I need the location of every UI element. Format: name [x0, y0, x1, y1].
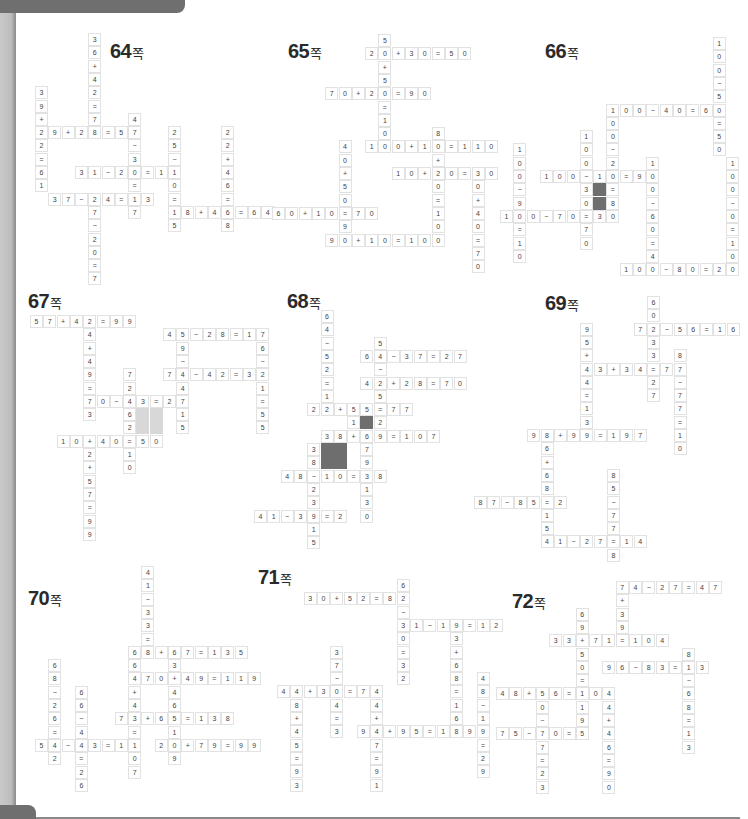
- grid-cell: 4: [360, 377, 373, 390]
- grid-cell: 1: [123, 448, 136, 461]
- grid-cell: 0: [168, 179, 181, 192]
- grid-cell: 3: [307, 496, 320, 509]
- grid-cell: 0: [567, 170, 580, 183]
- grid-cell: 7: [536, 727, 549, 740]
- grid-cell: 6: [450, 712, 463, 725]
- grid-cell: −: [75, 712, 88, 725]
- grid-cell: 0: [642, 634, 655, 647]
- grid-cell: =: [48, 726, 61, 739]
- grid-cell: 6: [360, 430, 373, 443]
- grid-cell: 0: [589, 687, 602, 700]
- grid-cell: 7: [325, 87, 338, 100]
- grid-cell: 3: [472, 167, 485, 180]
- grid-cell: =: [221, 193, 234, 206]
- grid-cell: 1: [472, 140, 485, 153]
- grid-cell: 3: [656, 661, 669, 674]
- grid-cell: 2: [580, 535, 593, 548]
- grid-cell: 5: [168, 712, 181, 725]
- grid-cell: 2: [374, 377, 387, 390]
- grid-cell: 1: [629, 634, 642, 647]
- grid-cell: 7: [176, 395, 189, 408]
- grid-cell: =: [208, 672, 221, 685]
- grid-cell: =: [606, 183, 619, 196]
- grid-cell: 0: [646, 170, 659, 183]
- puzzle-title: 66쪽: [545, 40, 579, 63]
- grid-cell: 1: [321, 470, 334, 483]
- grid-cell: 1: [450, 699, 463, 712]
- grid-cell: =: [128, 726, 141, 739]
- grid-cell: 9: [580, 429, 593, 442]
- grid-cell: 8: [674, 349, 687, 362]
- grid-cell: 0: [633, 263, 646, 276]
- grid-cell: 3: [321, 430, 334, 443]
- grid-cell: 6: [48, 659, 61, 672]
- grid-cell: 7: [674, 389, 687, 402]
- grid-cell: −: [477, 699, 490, 712]
- grid-cell: 3: [168, 659, 181, 672]
- grid-cell: 2: [256, 368, 269, 381]
- grid-cell: 3: [128, 712, 141, 725]
- grid-cell: 6: [168, 699, 181, 712]
- grid-cell: 1: [307, 523, 320, 536]
- puzzle-title: 65쪽: [288, 40, 322, 63]
- grid-cell: =: [563, 727, 576, 740]
- grid-cell: 1: [432, 207, 445, 220]
- grid-cell: 0: [155, 672, 168, 685]
- grid-cell: 6: [128, 646, 141, 659]
- grid-cell: 1: [405, 234, 418, 247]
- grid-cell: 9: [477, 765, 490, 778]
- grid-cell: 2: [35, 126, 48, 139]
- grid-cell: 0: [472, 220, 485, 233]
- grid-cell: 2: [477, 752, 490, 765]
- grid-cell: 0: [513, 170, 526, 183]
- grid-cell: +: [472, 194, 485, 207]
- grid-cell: 0: [378, 87, 391, 100]
- grid-cell: 0: [576, 661, 589, 674]
- grid-cell: 2: [321, 403, 334, 416]
- grid-cell: 7: [83, 488, 96, 501]
- grid-cell: =: [669, 661, 682, 674]
- page-number: 64: [110, 40, 131, 62]
- grid-cell: =: [83, 382, 96, 395]
- grid-cell: 8: [607, 549, 620, 562]
- grid-cell: 7: [400, 403, 413, 416]
- grid-cell: −: [726, 197, 739, 210]
- grid-cell: =: [256, 395, 269, 408]
- grid-cell: +: [383, 725, 396, 738]
- grid-cell: 5: [509, 727, 522, 740]
- grid-cell: 0: [392, 140, 405, 153]
- grid-cell: =: [432, 47, 445, 60]
- grid-cell: =: [387, 430, 400, 443]
- grid-cell: 2: [647, 323, 660, 336]
- grid-cell: 1: [437, 725, 450, 738]
- grid-cell: =: [563, 687, 576, 700]
- grid-cell: −: [682, 674, 695, 687]
- grid-cell: +: [57, 315, 70, 328]
- grid-cell: =: [427, 350, 440, 363]
- grid-cell: =: [141, 166, 154, 179]
- grid-cell: 0: [606, 210, 619, 223]
- grid-cell: 0: [339, 87, 352, 100]
- grid-cell: −: [102, 166, 115, 179]
- grid-cell: 2: [216, 368, 229, 381]
- grid-cell: 3: [136, 395, 149, 408]
- page-footer-tab: [0, 805, 36, 819]
- grid-cell: 3: [48, 193, 61, 206]
- grid-cell: −: [330, 672, 343, 685]
- grid-cell: 5: [290, 739, 303, 752]
- grid-cell: 9: [463, 725, 476, 738]
- grid-cell: 9: [450, 619, 463, 632]
- grid-cell: 1: [606, 104, 619, 117]
- grid-cell: 5: [674, 323, 687, 336]
- grid-cell: 8: [509, 687, 522, 700]
- grid-cell: =: [123, 435, 136, 448]
- grid-cell: 1: [370, 779, 383, 792]
- grid-cell: 2: [75, 766, 88, 779]
- grid-cell: 5: [115, 126, 128, 139]
- grid-cell: 4: [370, 699, 383, 712]
- grid-cell: 9: [248, 672, 261, 685]
- grid-cell: −: [88, 219, 101, 232]
- grid-cell: 2: [88, 86, 101, 99]
- grid-cell: +: [195, 206, 208, 219]
- grid-cell: 9: [567, 429, 580, 442]
